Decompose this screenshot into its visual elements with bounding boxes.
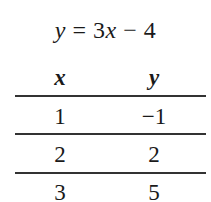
cell-y-1: −1 — [124, 103, 184, 131]
row-divider-2 — [15, 172, 206, 174]
equation-rhs: − 4 — [117, 17, 157, 43]
row-divider-1 — [15, 133, 206, 135]
header-y: y — [124, 64, 184, 92]
equation-var: x — [106, 17, 117, 43]
cell-x-3: 3 — [30, 179, 90, 202]
cell-y-3: 5 — [124, 179, 184, 202]
cell-x-2: 2 — [30, 141, 90, 169]
equation-middle: = 3 — [66, 17, 106, 43]
header-x: x — [30, 64, 90, 92]
equation-lhs: y — [55, 17, 66, 43]
cell-y-2: 2 — [124, 141, 184, 169]
cell-x-1: 1 — [30, 103, 90, 131]
equation-title: y = 3x − 4 — [0, 16, 211, 44]
header-divider — [15, 95, 206, 97]
